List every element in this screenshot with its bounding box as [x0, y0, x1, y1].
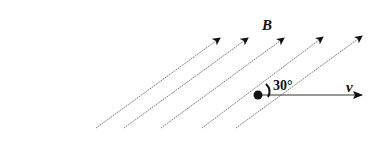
field-label-b: B: [262, 17, 272, 34]
field-lines: [96, 36, 362, 128]
angle-label: 30°: [273, 78, 293, 94]
magnetic-field-diagram: [0, 0, 381, 145]
field-line-3: [161, 38, 284, 128]
field-line-5: [236, 36, 362, 128]
field-line-1: [96, 38, 220, 128]
velocity-label-v: v: [346, 79, 353, 96]
field-line-4: [202, 37, 323, 128]
charged-particle: [254, 91, 263, 100]
field-line-2: [124, 38, 248, 128]
